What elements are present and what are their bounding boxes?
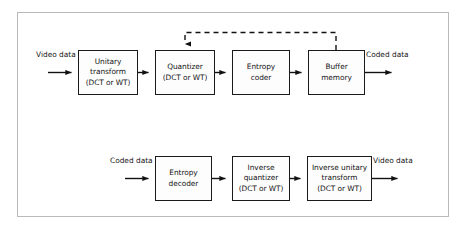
block-inverse-unitary-transform[interactable]: Inverse unitary transform (DCT or WT): [307, 156, 372, 201]
block-unitary-transform-line1: Unitary: [95, 57, 122, 67]
encoder-output-label: Coded data: [366, 50, 402, 59]
block-inverse-unitary-transform-line2: transform: [322, 173, 358, 183]
block-entropy-decoder[interactable]: Entropy decoder: [155, 156, 212, 201]
decoder-input-label-line1: Coded: [110, 156, 134, 165]
decoder-input-label-line2: data: [136, 156, 153, 165]
block-inverse-quantizer-line1: Inverse: [248, 163, 275, 173]
block-inverse-quantizer[interactable]: Inverse quantizer (DCT or WT): [232, 156, 290, 201]
block-quantizer-line2: (DCT or WT): [163, 73, 208, 83]
figure-canvas: Video data Coded data Unitary transform …: [0, 0, 463, 233]
block-buffer-memory[interactable]: Buffer memory: [308, 50, 365, 95]
decoder-input-label: Coded data: [110, 156, 146, 165]
encoder-input-label-line2: data: [59, 50, 76, 59]
block-entropy-coder[interactable]: Entropy coder: [232, 50, 290, 95]
block-quantizer[interactable]: Quantizer (DCT or WT): [155, 50, 215, 95]
block-unitary-transform[interactable]: Unitary transform (DCT or WT): [78, 50, 138, 95]
decoder-output-label-line2: data: [396, 156, 413, 165]
block-entropy-coder-line1: Entropy: [247, 62, 275, 72]
block-unitary-transform-line2: transform: [90, 67, 126, 77]
decoder-output-label: Video data: [373, 156, 407, 165]
block-inverse-unitary-transform-line1: Inverse unitary: [312, 163, 367, 173]
block-inverse-quantizer-line2: quantizer: [244, 173, 279, 183]
encoder-output-label-line2: data: [392, 50, 409, 59]
block-entropy-decoder-line2: decoder: [169, 179, 199, 189]
block-inverse-unitary-transform-line3: (DCT or WT): [317, 184, 362, 194]
block-quantizer-line1: Quantizer: [167, 62, 203, 72]
block-buffer-memory-line2: memory: [321, 73, 352, 83]
encoder-input-label: Video data: [36, 50, 68, 59]
encoder-output-label-line1: Coded: [366, 50, 390, 59]
block-unitary-transform-line3: (DCT or WT): [86, 78, 131, 88]
block-entropy-decoder-line1: Entropy: [169, 168, 197, 178]
decoder-output-label-line1: Video: [373, 156, 394, 165]
block-buffer-memory-line1: Buffer: [325, 62, 347, 72]
block-entropy-coder-line2: coder: [251, 73, 272, 83]
encoder-input-label-line1: Video: [36, 50, 57, 59]
block-inverse-quantizer-line3: (DCT or WT): [239, 184, 284, 194]
